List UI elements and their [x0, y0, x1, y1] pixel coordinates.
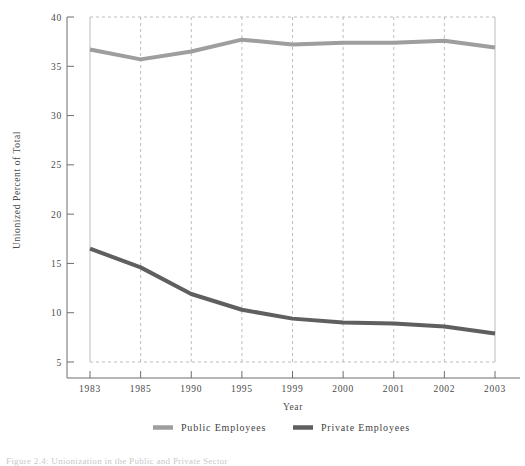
series-line-private-employees: [90, 249, 495, 334]
x-tick-label: 1985: [130, 384, 152, 394]
y-tick-label: 20: [51, 210, 62, 220]
y-tick-label: 15: [51, 259, 62, 269]
y-tick-label: 40: [51, 13, 62, 23]
y-tick-label: 35: [51, 62, 62, 72]
x-tick-label: 2001: [383, 384, 405, 394]
x-tick-label: 2003: [484, 384, 506, 394]
x-tick-label: 1999: [282, 384, 304, 394]
plot-area-border: [90, 17, 495, 362]
x-tick-label: 2002: [433, 384, 455, 394]
legend-label: Private Employees: [321, 422, 410, 433]
x-tick-label: 1995: [231, 384, 253, 394]
chart-legend: Public EmployeesPrivate Employees: [153, 422, 410, 433]
y-axis-title: Unionized Percent of Total: [12, 131, 22, 249]
y-tick-label: 10: [51, 308, 62, 318]
x-axis-title: Year: [283, 402, 303, 412]
legend-label: Public Employees: [181, 422, 266, 433]
x-tick-label: 1983: [79, 384, 101, 394]
x-tick-label: 2000: [332, 384, 354, 394]
vertical-gridlines: [90, 17, 495, 362]
figure-caption: Figure 2.4: Unionization in the Public a…: [6, 456, 228, 466]
y-axis-ticks: 510152025303540: [51, 13, 74, 368]
y-tick-label: 5: [57, 358, 62, 368]
y-tick-label: 25: [51, 160, 62, 170]
y-tick-label: 30: [51, 111, 62, 121]
x-axis-ticks: 198319851990199519992000200120022003: [79, 371, 506, 394]
x-tick-label: 1990: [180, 384, 202, 394]
